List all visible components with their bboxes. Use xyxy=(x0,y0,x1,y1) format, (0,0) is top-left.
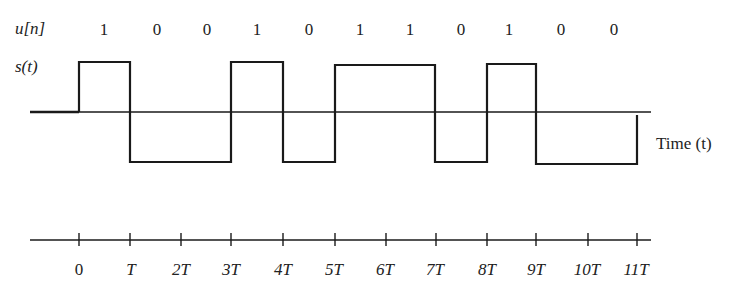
tick-label-11: 11T xyxy=(623,260,648,280)
time-axis-label-text: Time (t) xyxy=(656,134,712,153)
sequence-label: u[n] xyxy=(15,20,45,37)
bit-10: 0 xyxy=(610,20,619,40)
tick-label-1: T xyxy=(126,260,135,280)
bit-4: 0 xyxy=(305,20,314,40)
bit-5: 1 xyxy=(356,20,365,40)
tick-label-2: 2T xyxy=(172,260,190,280)
time-axis-label: Time (t) xyxy=(656,135,712,152)
bit-7: 0 xyxy=(457,20,466,40)
signal-label: s(t) xyxy=(15,58,38,75)
bit-2: 0 xyxy=(203,20,212,40)
tick-label-3: 3T xyxy=(222,260,240,280)
tick-label-9: 9T xyxy=(527,260,545,280)
tick-label-4: 4T xyxy=(274,260,292,280)
tick-label-6: 6T xyxy=(376,260,394,280)
signal-diagram: u[n] s(t) Time (t) 1 0 0 1 0 1 1 0 1 0 0… xyxy=(0,0,740,296)
bit-0: 1 xyxy=(100,20,109,40)
bit-8: 1 xyxy=(505,20,514,40)
signal-waveform xyxy=(79,62,637,164)
tick-label-5: 5T xyxy=(325,260,343,280)
tick-label-8: 8T xyxy=(478,260,496,280)
bit-6: 1 xyxy=(406,20,415,40)
waveform-canvas xyxy=(0,0,740,296)
tick-label-0: 0 xyxy=(75,260,84,280)
bit-3: 1 xyxy=(253,20,262,40)
tick-label-7: 7T xyxy=(426,260,444,280)
bit-1: 0 xyxy=(153,20,162,40)
bit-9: 0 xyxy=(557,20,566,40)
tick-label-10: 10T xyxy=(574,260,600,280)
